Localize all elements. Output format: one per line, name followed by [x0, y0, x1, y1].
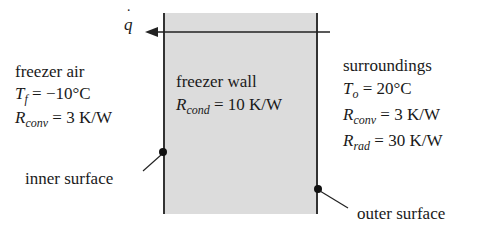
- inner-surface-dot-icon: [159, 148, 167, 156]
- wall-rcond: Rcond = 10 K/W: [176, 94, 282, 116]
- right-temp: To = 20°C: [343, 78, 412, 100]
- left-rconv: Rconv = 3 K/W: [15, 107, 112, 129]
- right-region-title: surroundings: [343, 55, 432, 77]
- outer-surface-label: outer surface: [357, 203, 445, 225]
- left-region-title: freezer air: [15, 61, 84, 83]
- left-temp: Tf = −10°C: [15, 83, 91, 105]
- heat-flow-dot: ˙: [126, 4, 131, 26]
- right-rrad: Rrad = 30 K/W: [343, 130, 442, 152]
- right-rconv: Rconv = 3 K/W: [343, 104, 440, 126]
- heat-flow-arrowhead-icon: [145, 27, 158, 37]
- wall-title: freezer wall: [176, 71, 257, 93]
- inner-surface-label: inner surface: [25, 168, 113, 190]
